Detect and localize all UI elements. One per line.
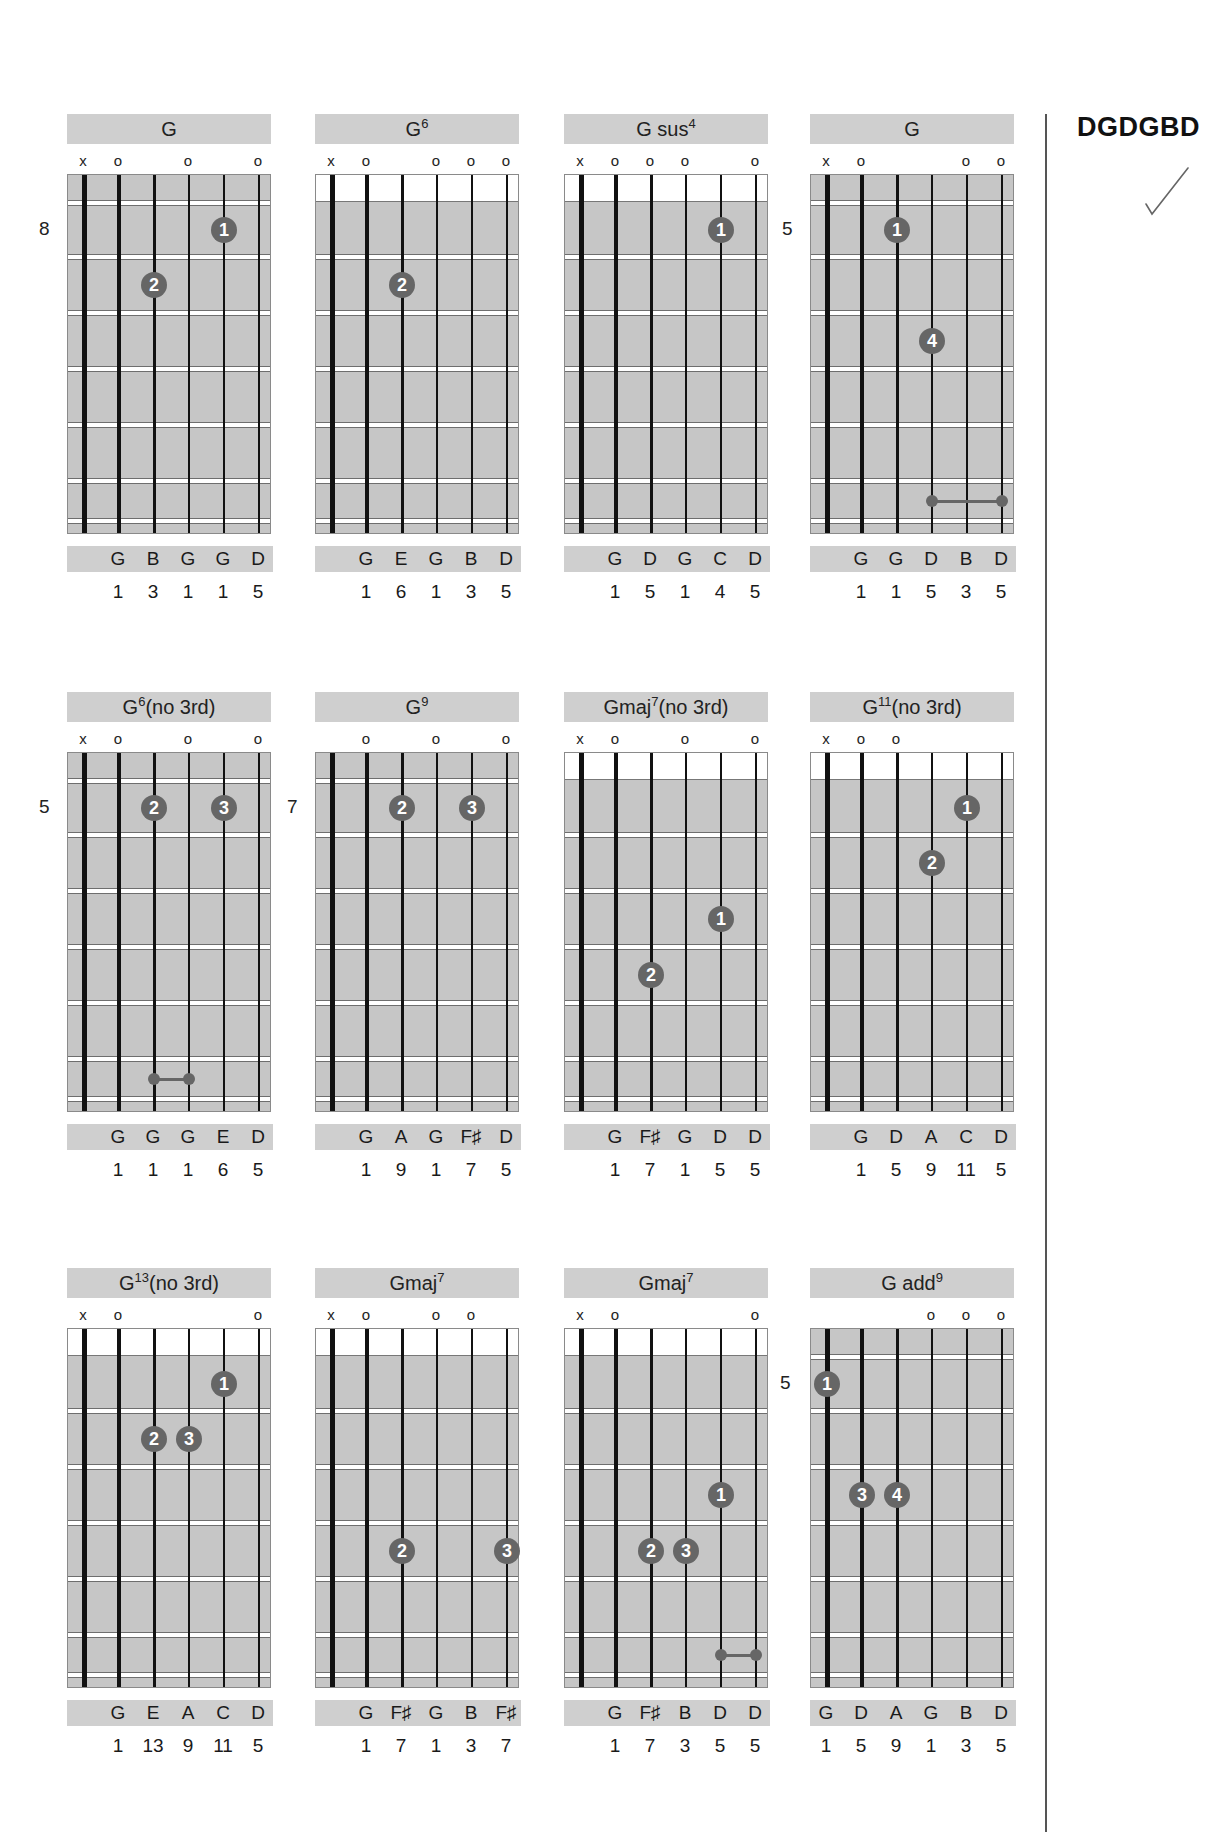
note-names-bar: GAGF♯D bbox=[315, 1124, 521, 1150]
guitar-string bbox=[825, 175, 830, 533]
note-name: F♯ bbox=[384, 1700, 418, 1726]
nut-area bbox=[565, 175, 767, 202]
chord-diagram: Gmaj7xooo23GF♯GBF♯17137 bbox=[315, 1268, 521, 1768]
fret-line bbox=[565, 832, 767, 838]
note-name: G bbox=[844, 1124, 878, 1150]
note-name: B bbox=[949, 1700, 983, 1726]
note-name: G bbox=[914, 1700, 948, 1726]
guitar-string bbox=[579, 175, 584, 533]
interval-degree: 5 bbox=[844, 1734, 878, 1758]
note-name: E bbox=[384, 546, 418, 572]
interval-numbers: 159115 bbox=[810, 1158, 1016, 1182]
note-names-bar: GDGCD bbox=[564, 546, 770, 572]
chord-suffix: (no 3rd) bbox=[659, 696, 729, 718]
fret-position-label: 5 bbox=[780, 1372, 791, 1394]
chord-diagram: Gxooo145GGDBD11535 bbox=[810, 114, 1016, 614]
chord-superscript: 9 bbox=[421, 694, 428, 709]
chord-title: G13(no 3rd) bbox=[67, 1268, 271, 1298]
open-string-icon: o bbox=[958, 1306, 974, 1324]
nut-area bbox=[316, 175, 518, 202]
finger-dot: 2 bbox=[919, 850, 945, 876]
open-string-icon: o bbox=[463, 1306, 479, 1324]
fret-line bbox=[316, 888, 518, 894]
fretboard: 12 bbox=[564, 752, 768, 1112]
guitar-string bbox=[365, 1329, 369, 1687]
interval-degree: 5 bbox=[914, 580, 948, 604]
fret-line bbox=[68, 518, 270, 524]
fret-line bbox=[565, 1632, 767, 1638]
note-name: D bbox=[914, 546, 948, 572]
chord-title: G6(no 3rd) bbox=[67, 692, 271, 722]
guitar-string bbox=[825, 753, 830, 1111]
finger-dot: 2 bbox=[389, 1538, 415, 1564]
guitar-string bbox=[365, 753, 369, 1111]
chord-superscript: 7 bbox=[437, 1270, 444, 1285]
guitar-string bbox=[650, 1329, 653, 1687]
fret-line bbox=[811, 1056, 1013, 1062]
fret-line bbox=[68, 200, 270, 206]
muted-string-icon: x bbox=[572, 730, 588, 748]
finger-dot: 2 bbox=[141, 795, 167, 821]
interval-degree: 1 bbox=[101, 1158, 135, 1182]
finger-dot: 2 bbox=[389, 795, 415, 821]
note-name: C bbox=[206, 1700, 240, 1726]
fret-line bbox=[68, 478, 270, 484]
guitar-string bbox=[931, 1329, 934, 1687]
fret-line bbox=[811, 366, 1013, 372]
fret-line bbox=[316, 1632, 518, 1638]
guitar-string bbox=[258, 753, 260, 1111]
guitar-string bbox=[720, 753, 722, 1111]
guitar-string bbox=[614, 1329, 618, 1687]
guitar-string bbox=[896, 753, 899, 1111]
guitar-string bbox=[755, 753, 757, 1111]
interval-degree: 3 bbox=[949, 580, 983, 604]
fret-line bbox=[565, 944, 767, 950]
guitar-string bbox=[860, 1329, 864, 1687]
chord-title: G11(no 3rd) bbox=[810, 692, 1014, 722]
string-markers: ooo bbox=[810, 1306, 1016, 1324]
interval-degree: 6 bbox=[206, 1158, 240, 1182]
note-name: G bbox=[171, 546, 205, 572]
note-name: E bbox=[206, 1124, 240, 1150]
interval-degree: 1 bbox=[171, 1158, 205, 1182]
finger-dot: 1 bbox=[814, 1371, 840, 1397]
interval-degree: 5 bbox=[984, 580, 1018, 604]
muted-string-icon: x bbox=[572, 1306, 588, 1324]
interval-degree: 3 bbox=[136, 580, 170, 604]
fret-line bbox=[316, 310, 518, 316]
chord-diagram: Gmaj7xoo123GF♯BDD17355 bbox=[564, 1268, 770, 1768]
fret-line bbox=[811, 944, 1013, 950]
fret-line bbox=[316, 944, 518, 950]
fret-line bbox=[68, 1576, 270, 1582]
fretboard: 134 bbox=[810, 1328, 1014, 1688]
note-name: D bbox=[241, 1124, 275, 1150]
interval-degree: 1 bbox=[598, 580, 632, 604]
finger-dot: 1 bbox=[708, 1482, 734, 1508]
interval-degree: 7 bbox=[633, 1734, 667, 1758]
finger-dot: 1 bbox=[954, 795, 980, 821]
note-name: F♯ bbox=[633, 1700, 667, 1726]
note-name: G bbox=[598, 546, 632, 572]
finger-dot: 1 bbox=[884, 217, 910, 243]
guitar-string bbox=[579, 1329, 584, 1687]
fret-position-label: 8 bbox=[39, 218, 50, 240]
note-names-bar: GF♯GDD bbox=[564, 1124, 770, 1150]
guitar-string bbox=[82, 175, 87, 533]
guitar-string bbox=[188, 1329, 191, 1687]
chord-title: G9 bbox=[315, 692, 519, 722]
string-markers: xooo bbox=[67, 730, 273, 748]
guitar-string bbox=[188, 753, 191, 1111]
interval-numbers: 17355 bbox=[564, 1734, 770, 1758]
interval-degree: 5 bbox=[738, 580, 772, 604]
fretboard: 14 bbox=[810, 174, 1014, 534]
note-name: G bbox=[419, 546, 453, 572]
note-name: G bbox=[101, 546, 135, 572]
string-markers: xoo bbox=[67, 1306, 273, 1324]
fret-line bbox=[316, 1520, 518, 1526]
finger-dot: 4 bbox=[884, 1482, 910, 1508]
interval-degree: 9 bbox=[384, 1158, 418, 1182]
fret-line bbox=[68, 422, 270, 428]
chord-name: G add bbox=[881, 1272, 935, 1294]
interval-degree: 5 bbox=[489, 1158, 523, 1182]
interval-degree: 1 bbox=[419, 1158, 453, 1182]
